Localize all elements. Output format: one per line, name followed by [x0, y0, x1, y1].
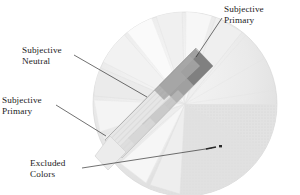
label-subjective-primary-top: Subjective Primary: [224, 4, 264, 25]
label-excluded-colors: Excluded Colors: [30, 158, 66, 179]
label-subjective-neutral: Subjective Neutral: [22, 45, 62, 66]
label-line-2: Neutral: [22, 56, 62, 67]
label-line-1: Subjective: [224, 4, 264, 15]
label-line-1: Subjective: [22, 45, 62, 56]
label-line-2: Primary: [224, 15, 264, 26]
label-subjective-primary-left: Subjective Primary: [2, 95, 42, 116]
label-line-1: Subjective: [2, 95, 42, 106]
label-line-1: Excluded: [30, 158, 66, 169]
label-line-2: Colors: [30, 169, 66, 180]
label-line-2: Primary: [2, 106, 42, 117]
gamut-disk: [93, 10, 300, 195]
